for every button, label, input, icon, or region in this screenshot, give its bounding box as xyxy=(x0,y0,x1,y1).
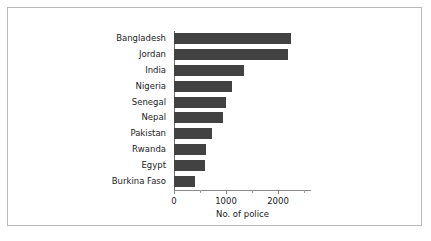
x-tick-minor xyxy=(304,190,305,193)
x-tick-label: 0 xyxy=(171,196,176,206)
category-label: Egypt xyxy=(60,160,166,171)
x-tick-major xyxy=(278,190,279,194)
x-tick-label: 1000 xyxy=(215,196,237,206)
category-axis-labels: BangladeshJordanIndiaNigeriaSenegalNepal… xyxy=(60,31,170,189)
bar xyxy=(174,97,226,108)
plot-area xyxy=(174,31,311,189)
category-label: Nigeria xyxy=(60,81,166,92)
bar xyxy=(174,33,291,44)
bar xyxy=(174,112,223,123)
x-tick-label: 2000 xyxy=(267,196,289,206)
category-label: Jordan xyxy=(60,49,166,60)
x-axis-spine xyxy=(174,190,311,191)
category-label: Bangladesh xyxy=(60,33,166,44)
x-tick-major xyxy=(226,190,227,194)
bar xyxy=(174,160,205,171)
bar xyxy=(174,81,232,92)
bar xyxy=(174,176,195,187)
category-label: India xyxy=(60,65,166,76)
x-tick-major xyxy=(174,190,175,194)
bar xyxy=(174,65,244,76)
bar xyxy=(174,128,212,139)
category-label: Pakistan xyxy=(60,128,166,139)
figure-canvas: BangladeshJordanIndiaNigeriaSenegalNepal… xyxy=(0,0,431,241)
category-label: Burkina Faso xyxy=(60,176,166,187)
x-tick-minor xyxy=(200,190,201,193)
bar xyxy=(174,49,288,60)
category-label: Nepal xyxy=(60,112,166,123)
category-label: Rwanda xyxy=(60,144,166,155)
bar xyxy=(174,144,206,155)
category-label: Senegal xyxy=(60,97,166,108)
x-axis-title: No. of police xyxy=(174,209,311,219)
x-tick-minor xyxy=(252,190,253,193)
